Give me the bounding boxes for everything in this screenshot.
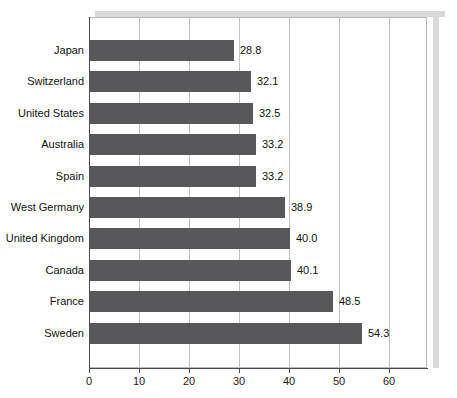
category-label-west-germany: West Germany	[0, 197, 84, 218]
x-tick-label: 10	[119, 375, 159, 388]
gridline-40	[289, 18, 290, 368]
bar-chart-figure: 0102030405060 28.832.132.533.233.238.940…	[0, 0, 457, 398]
category-label-united-kingdom: United Kingdom	[0, 228, 84, 249]
bar-sweden	[90, 323, 362, 344]
category-label-row: Japan	[0, 40, 84, 61]
category-label-sweden: Sweden	[0, 323, 84, 344]
category-label-japan: Japan	[0, 40, 84, 61]
x-tick-label: 50	[319, 375, 359, 388]
category-label-canada: Canada	[0, 260, 84, 281]
bar-value-label: 33.2	[262, 166, 283, 187]
x-tick-label: 60	[369, 375, 409, 388]
category-label-france: France	[0, 291, 84, 312]
bar-west-germany	[90, 197, 285, 218]
x-tick-label: 0	[69, 375, 109, 388]
x-tick-label: 20	[169, 375, 209, 388]
bar-value-label: 40.1	[297, 260, 318, 281]
x-axis-spine	[89, 368, 428, 369]
tick-20	[189, 369, 190, 373]
bar-value-label: 40.0	[296, 228, 317, 249]
tick-0	[89, 369, 90, 373]
gridline-60	[389, 18, 390, 368]
bar-japan	[90, 40, 234, 61]
category-label-row: Australia	[0, 134, 84, 155]
bar-value-label: 32.1	[257, 71, 278, 92]
y-axis-spine	[89, 17, 90, 369]
bar-value-label: 28.8	[240, 40, 261, 61]
gridline-50	[339, 18, 340, 368]
bar-switzerland	[90, 71, 251, 92]
category-label-row: United States	[0, 103, 84, 124]
bar-value-label: 33.2	[262, 134, 283, 155]
tick-40	[289, 369, 290, 373]
category-label-switzerland: Switzerland	[0, 71, 84, 92]
category-label-row: Spain	[0, 166, 84, 187]
tick-50	[339, 369, 340, 373]
bar-spain	[90, 166, 256, 187]
category-label-row: Canada	[0, 260, 84, 281]
category-label-row: Sweden	[0, 323, 84, 344]
category-label-row: West Germany	[0, 197, 84, 218]
category-label-spain: Spain	[0, 166, 84, 187]
category-label-row: Switzerland	[0, 71, 84, 92]
bar-value-label: 48.5	[339, 291, 360, 312]
tick-30	[239, 369, 240, 373]
bar-value-label: 54.3	[368, 323, 389, 344]
bar-value-label: 38.9	[291, 197, 312, 218]
bar-australia	[90, 134, 256, 155]
tick-60	[389, 369, 390, 373]
bar-canada	[90, 260, 291, 281]
category-label-united-states: United States	[0, 103, 84, 124]
category-label-australia: Australia	[0, 134, 84, 155]
bar-united-kingdom	[90, 228, 290, 249]
plot-shadow-right	[433, 11, 439, 368]
bar-france	[90, 291, 333, 312]
x-tick-label: 40	[269, 375, 309, 388]
bar-united-states	[90, 103, 253, 124]
bar-value-label: 32.5	[259, 103, 280, 124]
category-label-row: France	[0, 291, 84, 312]
x-tick-label: 30	[219, 375, 259, 388]
category-label-row: United Kingdom	[0, 228, 84, 249]
tick-10	[139, 369, 140, 373]
